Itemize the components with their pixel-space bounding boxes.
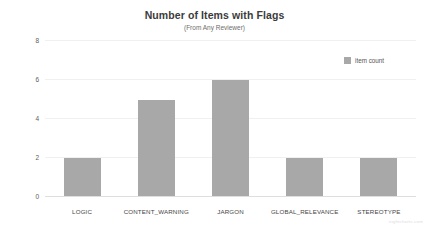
bar[interactable] [138, 100, 175, 198]
x-axis-labels: LOGICCONTENT_WARNINGJARGONGLOBAL_RELEVAN… [45, 200, 416, 218]
y-tick-label: 2 [35, 154, 39, 161]
page-title: Number of Items with Flags [0, 9, 429, 22]
y-tick-label: 4 [35, 115, 39, 122]
watermark: nightcharts.com [389, 219, 423, 224]
bar-chart: Number of Items with Flags (From Any Rev… [0, 0, 429, 234]
bar-slot [193, 41, 267, 197]
legend-label: item count [355, 57, 384, 64]
x-label-slot: LOGIC [45, 200, 119, 218]
x-label-slot: GLOBAL_RELEVANCE [268, 200, 342, 218]
bar[interactable] [212, 80, 249, 197]
x-axis-line [45, 196, 416, 197]
y-tick-label: 0 [35, 193, 39, 200]
chart-legend: item count [344, 57, 384, 64]
bar[interactable] [64, 158, 101, 197]
chart-title-block: Number of Items with Flags (From Any Rev… [0, 9, 429, 33]
y-tick-label: 6 [35, 76, 39, 83]
bar-slot [342, 41, 416, 197]
legend-swatch-icon [344, 57, 351, 64]
bar[interactable] [286, 158, 323, 197]
plot-area: 02468 [45, 41, 416, 197]
x-tick-label: GLOBAL_RELEVANCE [271, 208, 339, 215]
x-tick-label: JARGON [217, 208, 244, 215]
x-tick-label: LOGIC [72, 208, 92, 215]
bars-layer [45, 41, 416, 197]
x-label-slot: JARGON [193, 200, 267, 218]
bar-slot [268, 41, 342, 197]
x-label-slot: STEREOTYPE [342, 200, 416, 218]
bar-slot [45, 41, 119, 197]
x-label-slot: CONTENT_WARNING [119, 200, 193, 218]
y-tick-label: 8 [35, 37, 39, 44]
bar-slot [119, 41, 193, 197]
chart-subtitle: (From Any Reviewer) [0, 22, 429, 33]
bar[interactable] [360, 158, 397, 197]
x-tick-label: STEREOTYPE [357, 208, 400, 215]
x-tick-label: CONTENT_WARNING [124, 208, 189, 215]
